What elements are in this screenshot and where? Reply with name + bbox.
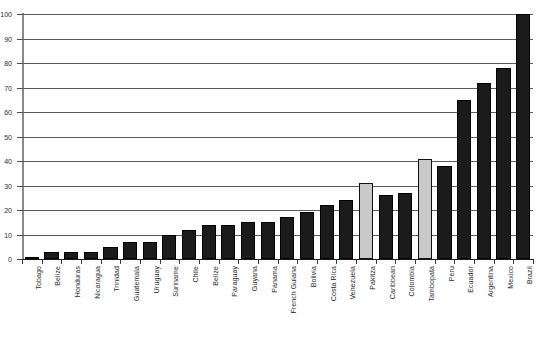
y-axis-tick: [17, 210, 22, 211]
bar: [84, 252, 98, 259]
bar: [320, 205, 334, 259]
x-axis-category-label: Guatemala: [133, 266, 140, 301]
y-axis-tick-label: 90: [4, 35, 12, 42]
x-axis-tick: [238, 259, 239, 264]
x-axis-tick: [435, 259, 436, 264]
y-axis-tick: [17, 137, 22, 138]
x-axis-category-label: Colombia: [408, 266, 415, 296]
y-axis-tick-label: 30: [4, 182, 12, 189]
y-axis-tick-label: 40: [4, 158, 12, 165]
plot-area: [22, 14, 533, 259]
bar: [457, 100, 471, 259]
y-axis-tick: [17, 14, 22, 15]
y-axis-tick-label: 10: [4, 231, 12, 238]
y-axis-tick-label: 70: [4, 84, 12, 91]
x-axis-tick: [199, 259, 200, 264]
bar: [300, 212, 314, 259]
x-axis-category-label: Mexico: [507, 266, 514, 289]
x-axis-category-label: Brazil: [526, 266, 533, 284]
bar: [221, 225, 235, 259]
bar-chart: 0102030405060708090100 TobagoBelizeHondu…: [0, 0, 539, 337]
bar: [359, 183, 373, 259]
x-axis-tick: [120, 259, 121, 264]
bar: [261, 222, 275, 259]
bar: [44, 252, 58, 259]
bar: [103, 247, 117, 259]
x-axis-category-label: Belize: [54, 266, 61, 286]
bar: [379, 195, 393, 259]
y-axis-tick-label: 50: [4, 133, 12, 140]
x-axis-category-label: Honduras: [74, 266, 81, 297]
x-axis-category-label: Panama: [271, 266, 278, 293]
x-axis-tick: [454, 259, 455, 264]
x-axis-tick: [533, 259, 534, 264]
y-axis-tick: [17, 88, 22, 89]
y-axis-tick: [17, 112, 22, 113]
bar: [418, 159, 432, 259]
x-axis-tick: [376, 259, 377, 264]
x-axis-category-label: Ecuador: [467, 266, 474, 293]
bar: [437, 166, 451, 259]
x-axis-category-label: Belize: [212, 266, 219, 286]
y-axis-tick: [17, 186, 22, 187]
x-axis-category-label: Venezuela: [349, 266, 356, 300]
x-axis-category-label: Tobago: [35, 266, 42, 290]
bar: [339, 200, 353, 259]
bar: [516, 14, 530, 259]
x-axis-category-label: Argentina: [487, 266, 494, 297]
x-axis-tick: [336, 259, 337, 264]
x-axis-tick: [160, 259, 161, 264]
x-axis-tick: [61, 259, 62, 264]
y-axis-tick-label: 0: [8, 256, 12, 263]
x-axis-category-label: Suriname: [172, 266, 179, 297]
x-axis-category-label: Tambopata: [428, 266, 435, 302]
x-axis-category-label: Uruguay: [153, 266, 160, 293]
x-axis-tick: [42, 259, 43, 264]
y-axis-tick-label: 80: [4, 60, 12, 67]
x-axis-tick: [474, 259, 475, 264]
bar: [162, 235, 176, 260]
x-axis-category-label: French Guiana: [290, 266, 297, 314]
bar: [496, 68, 510, 259]
y-axis-tick-label: 60: [4, 109, 12, 116]
x-axis-tick: [317, 259, 318, 264]
x-axis-tick: [297, 259, 298, 264]
x-axis-category-label: Costa Rica: [330, 266, 337, 301]
bar: [123, 242, 137, 259]
bar: [241, 222, 255, 259]
x-axis-tick: [22, 259, 23, 264]
x-axis-category-label: Paraguay: [231, 266, 238, 297]
x-axis-tick: [219, 259, 220, 264]
bar: [64, 252, 78, 259]
x-axis-category-label: Guyana: [251, 266, 258, 291]
x-axis-tick: [513, 259, 514, 264]
bar: [25, 257, 39, 259]
y-axis-tick: [17, 235, 22, 236]
y-axis-tick: [17, 161, 22, 162]
bar: [182, 230, 196, 259]
y-axis-tick: [17, 63, 22, 64]
x-axis-category-label: Nicaragua: [94, 266, 101, 299]
x-axis-tick: [356, 259, 357, 264]
bar: [280, 217, 294, 259]
x-axis-tick: [140, 259, 141, 264]
bar: [202, 225, 216, 259]
x-axis-tick: [81, 259, 82, 264]
x-axis-category-label: Bolivia: [310, 266, 317, 287]
x-axis-category-label: Peru: [448, 266, 455, 281]
y-axis-tick-label: 20: [4, 207, 12, 214]
x-axis-tick: [494, 259, 495, 264]
x-axis-tick: [395, 259, 396, 264]
x-axis-tick: [101, 259, 102, 264]
y-axis-tick-label: 100: [0, 11, 12, 18]
x-axis-category-label: Chile: [192, 266, 199, 282]
bar: [477, 83, 491, 259]
bars-group: [22, 14, 533, 259]
bar: [143, 242, 157, 259]
x-axis-tick: [179, 259, 180, 264]
x-axis-category-label: Pakitza: [369, 266, 376, 290]
x-axis-tick: [415, 259, 416, 264]
x-axis-category-label: Trinidad: [113, 266, 120, 292]
bar: [398, 193, 412, 259]
x-axis-tick: [278, 259, 279, 264]
